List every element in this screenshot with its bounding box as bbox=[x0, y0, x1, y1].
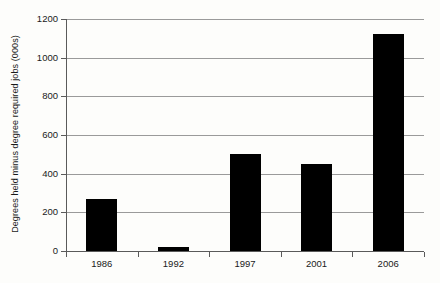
x-tick-mark bbox=[424, 252, 425, 257]
y-tick-label: 0 bbox=[24, 246, 58, 256]
y-tick-label-wrap: 400 bbox=[20, 169, 58, 179]
y-tick-label-wrap: 600 bbox=[20, 130, 58, 140]
x-tick-mark bbox=[352, 252, 353, 257]
y-tick-label: 800 bbox=[24, 91, 58, 101]
y-tick-mark bbox=[61, 96, 67, 97]
y-tick-label: 1000 bbox=[24, 53, 58, 63]
x-tick-label: 1992 bbox=[141, 257, 205, 271]
y-tick-label-wrap: 1200 bbox=[20, 14, 58, 24]
gridline bbox=[66, 58, 424, 59]
y-tick-mark bbox=[61, 135, 67, 136]
gridline bbox=[66, 19, 424, 20]
bar-chart-figure: Degrees held minus degree required jobs … bbox=[0, 0, 440, 283]
bar bbox=[301, 164, 332, 251]
x-tick-label: 2001 bbox=[285, 257, 349, 271]
y-tick-label-wrap: 1000 bbox=[20, 53, 58, 63]
y-tick-label-wrap: 0 bbox=[20, 246, 58, 256]
y-tick-mark bbox=[61, 212, 67, 213]
y-tick-label-wrap: 800 bbox=[20, 91, 58, 101]
y-tick-label: 600 bbox=[24, 130, 58, 140]
y-tick-mark bbox=[61, 58, 67, 59]
y-tick-mark bbox=[61, 174, 67, 175]
x-tick-label: 1997 bbox=[213, 257, 277, 271]
y-tick-label: 200 bbox=[24, 207, 58, 217]
gridline bbox=[66, 135, 424, 136]
bar bbox=[230, 154, 261, 251]
y-tick-label: 400 bbox=[24, 169, 58, 179]
bar bbox=[158, 247, 189, 251]
y-tick-label-wrap: 200 bbox=[20, 207, 58, 217]
x-tick-label: 2006 bbox=[356, 257, 420, 271]
x-tick-label: 1986 bbox=[70, 257, 134, 271]
x-tick-mark bbox=[281, 252, 282, 257]
gridline bbox=[66, 96, 424, 97]
y-tick-mark bbox=[61, 19, 67, 20]
x-tick-mark bbox=[66, 252, 67, 257]
bar bbox=[86, 199, 117, 251]
gridline bbox=[66, 251, 424, 252]
x-tick-mark bbox=[138, 252, 139, 257]
x-tick-mark bbox=[209, 252, 210, 257]
y-tick-label: 1200 bbox=[24, 14, 58, 24]
bar bbox=[373, 34, 404, 251]
